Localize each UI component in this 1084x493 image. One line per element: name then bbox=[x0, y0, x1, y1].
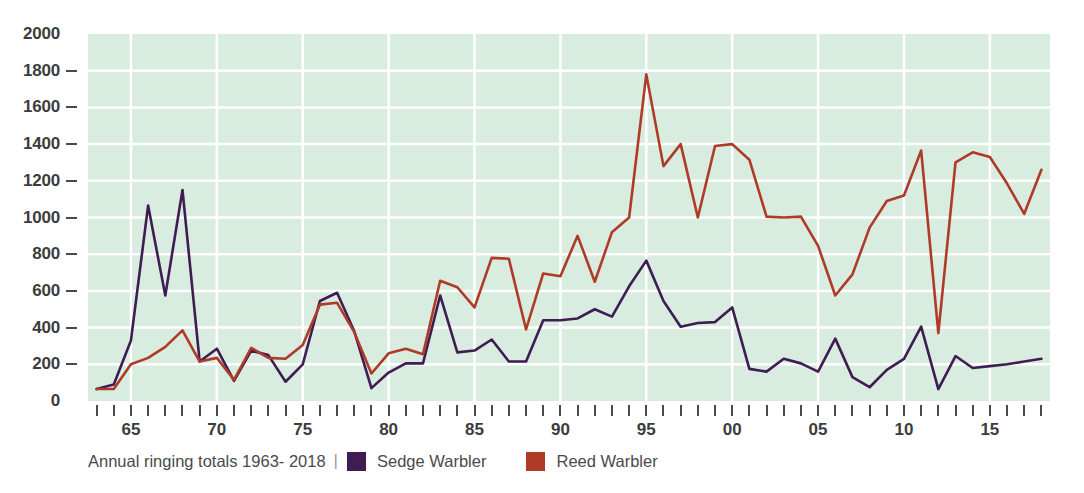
x-tick-mark bbox=[662, 405, 664, 416]
x-tick-mark bbox=[680, 405, 682, 416]
y-tick-label: 1800 bbox=[0, 62, 60, 79]
chart-caption: Annual ringing totals 1963- 2018 bbox=[88, 452, 326, 471]
x-tick-mark bbox=[1023, 405, 1025, 416]
y-tick-mark bbox=[66, 327, 77, 329]
x-tick-mark bbox=[817, 405, 819, 416]
y-tick-mark bbox=[66, 106, 77, 108]
x-tick-label: 00 bbox=[723, 420, 742, 440]
x-tick-mark bbox=[1006, 405, 1008, 416]
gridlines bbox=[88, 34, 1050, 401]
series-line-sedge-warbler bbox=[97, 190, 1042, 389]
x-tick-label: 75 bbox=[293, 420, 312, 440]
x-tick-mark bbox=[96, 405, 98, 416]
x-tick-mark bbox=[285, 405, 287, 416]
y-tick-mark bbox=[66, 253, 77, 255]
x-tick-mark bbox=[869, 405, 871, 416]
plot-area bbox=[88, 34, 1050, 401]
y-tick-label: 200 bbox=[0, 355, 60, 372]
x-tick-mark bbox=[302, 405, 304, 416]
line-chart: 2000180016001400120010008006004002000 65… bbox=[0, 0, 1084, 493]
x-tick-mark bbox=[731, 405, 733, 416]
legend-color-swatch bbox=[526, 452, 545, 471]
x-tick-mark bbox=[1040, 405, 1042, 416]
x-tick-mark bbox=[542, 405, 544, 416]
x-tick-mark bbox=[955, 405, 957, 416]
legend-item-reed-warbler[interactable]: Reed Warbler bbox=[526, 452, 657, 471]
x-tick-mark bbox=[628, 405, 630, 416]
x-tick-mark bbox=[594, 405, 596, 416]
x-tick-label: 10 bbox=[895, 420, 914, 440]
legend-entries: Sedge WarblerReed Warbler bbox=[347, 452, 698, 471]
y-tick-label: 1600 bbox=[0, 98, 60, 115]
y-tick-mark bbox=[66, 217, 77, 219]
x-tick-mark bbox=[456, 405, 458, 416]
x-tick-mark bbox=[972, 405, 974, 416]
x-tick-mark bbox=[748, 405, 750, 416]
x-tick-mark bbox=[611, 405, 613, 416]
x-tick-label: 70 bbox=[207, 420, 226, 440]
y-tick-mark bbox=[66, 70, 77, 72]
x-tick-label: 05 bbox=[809, 420, 828, 440]
y-tick-label: 1000 bbox=[0, 209, 60, 226]
x-tick-mark bbox=[697, 405, 699, 416]
x-tick-mark bbox=[181, 405, 183, 416]
legend-item-sedge-warbler[interactable]: Sedge Warbler bbox=[347, 452, 486, 471]
plot-svg bbox=[88, 34, 1050, 401]
x-tick-mark bbox=[250, 405, 252, 416]
x-tick-mark bbox=[525, 405, 527, 416]
chart-legend: Annual ringing totals 1963- 2018 | Sedge… bbox=[88, 446, 698, 476]
x-tick-mark bbox=[714, 405, 716, 416]
x-tick-mark bbox=[267, 405, 269, 416]
x-tick-label: 95 bbox=[637, 420, 656, 440]
x-tick-mark bbox=[353, 405, 355, 416]
x-tick-mark bbox=[645, 405, 647, 416]
x-tick-mark bbox=[783, 405, 785, 416]
x-tick-mark bbox=[903, 405, 905, 416]
x-tick-mark bbox=[388, 405, 390, 416]
y-tick-label: 800 bbox=[0, 245, 60, 262]
x-tick-mark bbox=[319, 405, 321, 416]
legend-label: Reed Warbler bbox=[556, 452, 657, 471]
legend-separator: | bbox=[334, 451, 338, 471]
x-tick-mark bbox=[851, 405, 853, 416]
x-tick-mark bbox=[439, 405, 441, 416]
y-tick-mark bbox=[66, 290, 77, 292]
x-tick-label: 85 bbox=[465, 420, 484, 440]
y-tick-label: 2000 bbox=[0, 25, 60, 42]
x-tick-mark bbox=[474, 405, 476, 416]
x-tick-mark bbox=[766, 405, 768, 416]
y-tick-label: 400 bbox=[0, 319, 60, 336]
y-tick-label: 1400 bbox=[0, 135, 60, 152]
x-tick-mark bbox=[370, 405, 372, 416]
y-tick-label: 1200 bbox=[0, 172, 60, 189]
y-tick-mark bbox=[66, 143, 77, 145]
series-lines bbox=[97, 74, 1042, 389]
legend-label: Sedge Warbler bbox=[377, 452, 486, 471]
series-line-reed-warbler bbox=[97, 74, 1042, 389]
x-tick-mark bbox=[199, 405, 201, 416]
x-tick-mark bbox=[233, 405, 235, 416]
legend-color-swatch bbox=[347, 452, 366, 471]
x-tick-mark bbox=[113, 405, 115, 416]
x-tick-mark bbox=[886, 405, 888, 416]
y-tick-label: 600 bbox=[0, 282, 60, 299]
x-tick-mark bbox=[405, 405, 407, 416]
x-tick-label: 65 bbox=[121, 420, 140, 440]
x-tick-mark bbox=[508, 405, 510, 416]
y-tick-mark bbox=[66, 363, 77, 365]
y-tick-mark bbox=[66, 180, 77, 182]
x-axis: 6570758085909500051015 bbox=[0, 401, 1084, 451]
x-tick-mark bbox=[989, 405, 991, 416]
x-tick-label: 90 bbox=[551, 420, 570, 440]
x-tick-mark bbox=[559, 405, 561, 416]
x-tick-mark bbox=[834, 405, 836, 416]
x-tick-mark bbox=[164, 405, 166, 416]
x-tick-mark bbox=[336, 405, 338, 416]
x-tick-mark bbox=[800, 405, 802, 416]
x-tick-mark bbox=[577, 405, 579, 416]
x-tick-mark bbox=[147, 405, 149, 416]
x-tick-mark bbox=[130, 405, 132, 416]
x-tick-mark bbox=[920, 405, 922, 416]
x-tick-mark bbox=[422, 405, 424, 416]
x-tick-label: 80 bbox=[379, 420, 398, 440]
